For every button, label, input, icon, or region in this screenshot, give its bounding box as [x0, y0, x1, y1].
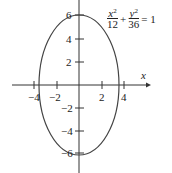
y-tick-label: 2 [66, 56, 72, 68]
x-axis-label: x [140, 69, 146, 81]
x-tick-label: −2 [49, 91, 61, 103]
x-fraction: x2 12 [107, 8, 118, 29]
y-fraction: y2 36 [128, 8, 139, 29]
x-tick-label: 4 [121, 91, 127, 103]
y-tick-label: −6 [61, 147, 73, 159]
y-tick-label: −2 [61, 102, 73, 114]
ellipse-equation: x2 12 + y2 36 = 1 [107, 8, 156, 29]
y-tick-label: 4 [66, 33, 72, 45]
x-axis-arrow-icon [146, 83, 151, 88]
x-tick-label: −4 [28, 91, 40, 103]
y-tick-label: −4 [61, 125, 73, 137]
y-tick-label: 6 [66, 9, 72, 21]
x-tick-label: 2 [99, 91, 105, 103]
